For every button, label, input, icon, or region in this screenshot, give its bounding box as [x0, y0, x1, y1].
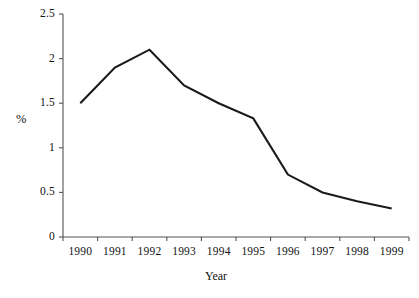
y-tick-label: 2 — [49, 53, 55, 65]
x-axis-tick-marks — [63, 237, 409, 241]
axes — [63, 14, 409, 237]
data-series-line — [80, 50, 391, 209]
x-axis-title: Year — [205, 270, 227, 282]
y-tick-label: 2.5 — [40, 8, 55, 20]
y-axis-title: % — [16, 113, 26, 126]
x-tick-label: 1994 — [207, 246, 231, 258]
x-tick-label: 1996 — [276, 246, 300, 258]
x-tick-label: 1991 — [103, 246, 127, 258]
x-tick-label: 1999 — [380, 246, 404, 258]
y-tick-label: 1.5 — [40, 97, 55, 109]
x-tick-label: 1990 — [68, 246, 92, 258]
y-tick-label: 0 — [49, 231, 55, 243]
x-tick-label: 1993 — [172, 246, 196, 258]
x-tick-label: 1997 — [311, 246, 335, 258]
x-tick-label: 1998 — [345, 246, 369, 258]
x-tick-label: 1995 — [241, 246, 265, 258]
y-tick-label: 0.5 — [40, 186, 55, 198]
y-tick-label: 1 — [49, 142, 55, 154]
y-axis-tick-marks — [59, 14, 63, 237]
line-chart-figure: 00.511.522.5 199019911992199319941995199… — [0, 0, 419, 298]
x-tick-label: 1992 — [138, 246, 162, 258]
